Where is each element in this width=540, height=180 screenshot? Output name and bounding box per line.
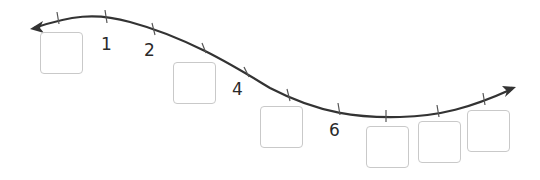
label-4: 4 [232,81,243,98]
label-1: 1 [101,36,112,53]
blank-box-9[interactable] [467,110,510,152]
blank-box-5[interactable] [260,106,303,148]
tick-9 [483,93,485,105]
blank-box-8[interactable] [418,121,461,163]
tick-8 [437,105,439,117]
blank-box-7[interactable] [366,126,409,168]
tick-5 [287,89,290,101]
label-2: 2 [144,42,155,59]
label-6: 6 [329,122,340,139]
blank-box-0[interactable] [40,32,83,74]
number-line-curve [34,16,512,117]
blank-box-3[interactable] [173,62,216,104]
